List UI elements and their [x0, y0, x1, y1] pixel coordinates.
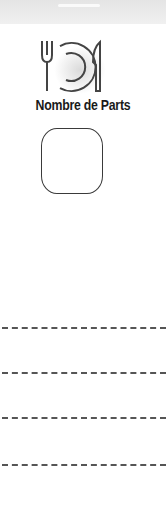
write-line-2[interactable] [2, 372, 166, 374]
servings-label: Nombre de Parts [15, 96, 151, 113]
servings-input[interactable] [41, 128, 103, 194]
top-mark [58, 4, 100, 7]
write-line-3[interactable] [2, 417, 166, 419]
plate-fork-knife-icon [36, 38, 110, 94]
write-line-4[interactable] [2, 464, 166, 466]
write-line-1[interactable] [2, 327, 166, 329]
top-band [0, 0, 166, 24]
